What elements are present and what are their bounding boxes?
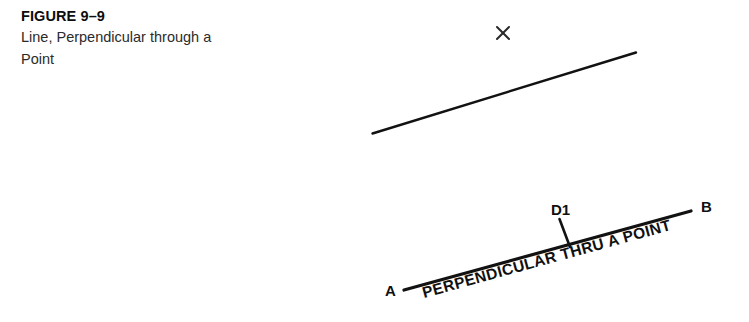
- figure-artwork-svg: A B D1 PERPENDICULAR THRU A POINT: [0, 0, 749, 322]
- label-d1: D1: [551, 201, 570, 218]
- figure-artwork: A B D1 PERPENDICULAR THRU A POINT: [0, 0, 749, 322]
- upper-diagram: [373, 27, 637, 134]
- label-b: B: [701, 198, 712, 215]
- perpendicular-annotation: PERPENDICULAR THRU A POINT: [420, 216, 673, 301]
- given-line: [373, 53, 637, 134]
- label-a: A: [385, 282, 396, 299]
- lower-diagram: A B D1 PERPENDICULAR THRU A POINT: [385, 198, 712, 301]
- figure-page: FIGURE 9–9 Line, Perpendicular through a…: [0, 0, 749, 322]
- x-point-mark-icon: [497, 27, 509, 39]
